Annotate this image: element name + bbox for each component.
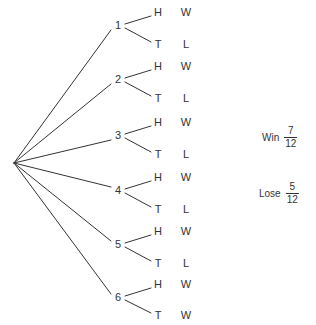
- branch-line-stage2-3-H: [125, 126, 151, 134]
- fraction-numerator: 5: [288, 182, 296, 193]
- die-node-1: 1: [111, 20, 125, 31]
- summary-lose: Lose512: [259, 182, 299, 205]
- summary-label-lose: Lose: [259, 188, 281, 199]
- fraction-denominator: 12: [284, 138, 297, 149]
- outcome-node-2-T: L: [179, 93, 193, 104]
- flip-node-1-H: H: [151, 7, 165, 18]
- probability-tree-diagram: 1HWTL2HWTL3HWTL4HWTL5HWTL6HWTW Win712Los…: [0, 0, 316, 325]
- branch-line-stage2-4-T: [125, 193, 151, 207]
- die-node-6: 6: [111, 292, 125, 303]
- flip-node-5-H: H: [151, 226, 165, 237]
- outcome-node-4-T: L: [179, 204, 193, 215]
- flip-node-3-T: T: [151, 149, 165, 160]
- branch-line-stage2-1-H: [125, 16, 151, 24]
- summary-win: Win712: [262, 126, 297, 149]
- branch-line-stage2-1-T: [125, 28, 151, 42]
- die-node-2: 2: [111, 74, 125, 85]
- outcome-node-1-T: L: [179, 39, 193, 50]
- fraction-numerator: 7: [287, 126, 295, 137]
- flip-node-4-H: H: [151, 172, 165, 183]
- outcome-node-5-T: L: [179, 258, 193, 269]
- outcome-node-2-H: W: [179, 61, 193, 72]
- flip-node-6-T: T: [151, 310, 165, 321]
- flip-node-1-T: T: [151, 39, 165, 50]
- fraction-win: 712: [284, 126, 297, 149]
- outcome-node-3-H: W: [179, 117, 193, 128]
- outcome-node-5-H: W: [179, 226, 193, 237]
- outcome-node-6-T: W: [179, 310, 193, 321]
- branch-line-stage2-4-H: [125, 181, 151, 189]
- branch-line-stage2-6-H: [125, 288, 151, 296]
- branch-line-stage2-2-T: [125, 82, 151, 96]
- outcome-node-4-H: W: [179, 172, 193, 183]
- branch-line-stage1-6: [14, 163, 111, 294]
- fraction-denominator: 12: [286, 194, 299, 205]
- branch-line-stage2-5-H: [125, 235, 151, 243]
- flip-node-5-T: T: [151, 258, 165, 269]
- die-node-4: 4: [111, 185, 125, 196]
- summary-label-win: Win: [262, 132, 279, 143]
- branch-line-stage2-5-T: [125, 247, 151, 261]
- flip-node-2-H: H: [151, 61, 165, 72]
- flip-node-4-T: T: [151, 204, 165, 215]
- branch-line-stage2-2-H: [125, 70, 151, 78]
- flip-node-2-T: T: [151, 93, 165, 104]
- die-node-5: 5: [111, 239, 125, 250]
- fraction-lose: 512: [286, 182, 299, 205]
- die-node-3: 3: [111, 130, 125, 141]
- outcome-node-6-H: W: [179, 279, 193, 290]
- outcome-node-1-H: W: [179, 7, 193, 18]
- branch-line-stage2-6-T: [125, 300, 151, 313]
- branch-line-stage2-3-T: [125, 138, 151, 152]
- flip-node-6-H: H: [151, 279, 165, 290]
- flip-node-3-H: H: [151, 117, 165, 128]
- outcome-node-3-T: L: [179, 149, 193, 160]
